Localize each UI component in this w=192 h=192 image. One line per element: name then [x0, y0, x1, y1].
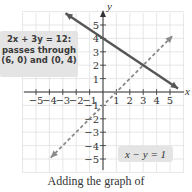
svg-text:−3: −3	[84, 127, 99, 138]
svg-text:−1: −1	[84, 100, 99, 111]
svg-text:1: 1	[93, 74, 99, 85]
svg-text:3: 3	[93, 47, 99, 58]
callout-equation: 2x + 3y = 12:	[0, 34, 78, 45]
svg-text:−5: −5	[84, 154, 99, 165]
graph-figure: −5−4−3−2−11234554321−1−2−3−4−5 x y 2x + …	[0, 0, 192, 192]
solid-line-callout: 2x + 3y = 12: passes through (6, 0) and …	[0, 31, 78, 77]
x-axis-label: x	[184, 85, 190, 97]
svg-text:2: 2	[127, 95, 133, 106]
svg-text:1: 1	[113, 95, 119, 106]
svg-text:4: 4	[153, 95, 159, 106]
y-axis-arrow-icon	[100, 10, 106, 17]
svg-text:3: 3	[140, 95, 146, 106]
y-axis-label: y	[106, 0, 112, 12]
callout-points: (6, 0) and (0, 4)	[0, 55, 78, 66]
solid-line	[65, 13, 178, 88]
svg-text:2: 2	[93, 60, 99, 71]
figure-caption: Adding the graph of	[0, 174, 192, 189]
svg-text:5: 5	[167, 95, 173, 106]
svg-text:5: 5	[93, 20, 99, 31]
dashed-line-callout: x − y = 1	[118, 146, 173, 162]
coordinate-plane: −5−4−3−2−11234554321−1−2−3−4−5 x y	[0, 0, 192, 192]
svg-text:−4: −4	[84, 141, 99, 152]
callout-description: passes through	[0, 45, 78, 56]
